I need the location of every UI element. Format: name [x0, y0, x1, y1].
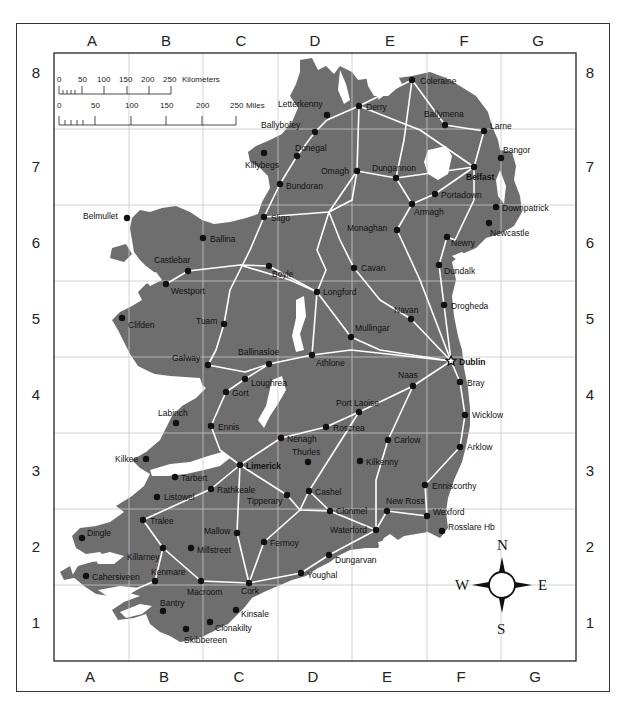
- city-label: Dublin: [459, 357, 485, 367]
- city-dot-icon: [462, 412, 468, 418]
- city-dot-icon: [384, 508, 390, 514]
- city-dot-icon: [357, 458, 363, 464]
- compass-rose: N S W E: [455, 537, 547, 637]
- city-dot-icon: [237, 462, 243, 468]
- city-dot-icon: [221, 321, 227, 327]
- city-dot-icon: [83, 573, 89, 579]
- scale-km-tick-0: 0: [57, 75, 62, 84]
- city-dot-icon: [312, 129, 318, 135]
- city-dot-icon: [234, 530, 240, 536]
- city-label: Rathkeale: [217, 485, 256, 495]
- city-label: Labinch: [158, 408, 188, 418]
- city-dot-icon: [173, 420, 179, 426]
- city-dot-icon: [200, 235, 206, 241]
- city-dot-icon: [442, 122, 448, 128]
- city-label: Boyle: [272, 269, 294, 279]
- city-label: Bray: [467, 378, 485, 388]
- city-dot-icon: [305, 459, 311, 465]
- city-label: Westport: [171, 286, 205, 296]
- city-dot-icon: [457, 444, 463, 450]
- city-label: Bangor: [503, 145, 531, 155]
- city-label: Macroom: [187, 587, 222, 597]
- city-dot-icon: [408, 316, 414, 322]
- city-label: Mallow: [204, 526, 231, 536]
- city-label: Clifden: [128, 320, 155, 330]
- city-label: Cashel: [315, 487, 342, 497]
- city-downpatrick: Downpatrick: [493, 203, 550, 213]
- city-label: Dungannon: [372, 163, 416, 173]
- city-dot-icon: [457, 379, 463, 385]
- city-label: Thurles: [292, 447, 320, 457]
- city-label: Athlone: [316, 358, 345, 368]
- city-dot-icon: [261, 214, 267, 220]
- scale-miles: [59, 116, 236, 125]
- city-label: Ballybofey: [261, 120, 301, 130]
- city-dot-icon: [439, 528, 445, 534]
- city-dot-icon: [208, 486, 214, 492]
- city-dot-icon: [306, 488, 312, 494]
- city-label: Letterkenny: [278, 99, 323, 109]
- scale-mi-tick-50: 50: [91, 101, 100, 110]
- city-dot-icon: [188, 545, 194, 551]
- city-label: Wexford: [433, 507, 465, 517]
- city-label: Kilkenny: [366, 457, 399, 467]
- city-dot-icon: [326, 552, 332, 558]
- city-label: Listowel: [164, 492, 195, 502]
- city-dot-icon: [152, 578, 158, 584]
- city-dot-icon: [324, 112, 330, 118]
- city-label: Mullingar: [355, 323, 390, 333]
- city-dot-icon: [277, 181, 283, 187]
- city-label: Navan: [394, 305, 419, 315]
- city-belmullet: Belmullet: [83, 211, 130, 221]
- city-label: Killarney: [127, 552, 160, 562]
- city-dot-icon: [424, 513, 430, 519]
- city-dot-icon: [160, 545, 166, 551]
- city-dot-icon: [394, 227, 400, 233]
- city-dot-icon: [409, 77, 415, 83]
- scale-mi-tick-100: 100: [125, 101, 139, 110]
- city-dot-icon: [498, 155, 504, 161]
- city-label: Fermoy: [270, 538, 300, 548]
- city-dot-icon: [493, 204, 499, 210]
- city-label: Tralee: [150, 516, 174, 526]
- city-label: Kilkee: [115, 454, 138, 464]
- city-dot-icon: [278, 435, 284, 441]
- city-label: New Ross: [386, 496, 425, 506]
- city-label: Wicklow: [472, 410, 504, 420]
- scale-km-tick-250: 250: [163, 75, 177, 84]
- city-label: Donegal: [295, 143, 327, 153]
- city-label: Millstreet: [197, 545, 232, 555]
- city-label: Longford: [323, 287, 357, 297]
- city-label: Omagh: [321, 166, 349, 176]
- city-dot-icon: [261, 150, 267, 156]
- city-label: Kenmare: [151, 567, 186, 577]
- compass-s: S: [497, 621, 505, 637]
- city-dot-icon: [356, 103, 362, 109]
- compass-e: E: [538, 577, 547, 593]
- city-label: Portadown: [441, 190, 482, 200]
- city-dot-icon: [143, 456, 149, 462]
- city-label: Carlow: [394, 435, 421, 445]
- city-dot-icon: [323, 424, 329, 430]
- city-label: Armagh: [414, 207, 444, 217]
- city-label: Bundoran: [286, 181, 323, 191]
- city-label: Loughrea: [251, 378, 287, 388]
- city-dot-icon: [163, 281, 169, 287]
- city-dot-icon: [314, 289, 320, 295]
- city-label: Dingle: [87, 528, 111, 538]
- city-label: Waterford: [330, 525, 367, 535]
- city-label: Bantry: [160, 598, 185, 608]
- city-label: Kinsale: [241, 609, 269, 619]
- city-dot-icon: [298, 570, 304, 576]
- city-label: Cavan: [361, 263, 386, 273]
- city-dot-icon: [140, 517, 146, 523]
- city-dot-icon: [471, 164, 477, 170]
- city-label: Sligo: [271, 213, 290, 223]
- city-dot-icon: [422, 482, 428, 488]
- scale-km: [59, 86, 171, 94]
- scale-km-tick-150: 150: [119, 75, 133, 84]
- city-dot-icon: [486, 220, 492, 226]
- city-label: Ballymena: [424, 109, 464, 119]
- city-dot-icon: [441, 302, 447, 308]
- city-dot-icon: [354, 168, 360, 174]
